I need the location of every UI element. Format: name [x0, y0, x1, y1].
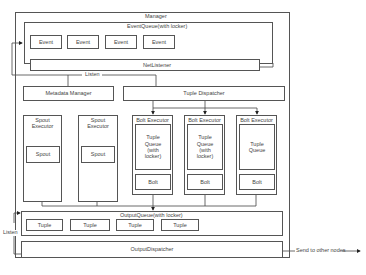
- metadata-manager: Metadata Manager: [23, 86, 114, 101]
- tuple-box: Tuple: [116, 219, 154, 231]
- tuple-box: Tuple: [26, 219, 63, 231]
- output-dispatcher: OutputDispatcher: [21, 241, 283, 258]
- event-queue-label: EventQueue(with locker): [127, 24, 187, 30]
- tuple-dispatcher: Tuple Dispatcher: [123, 86, 285, 101]
- spout-box: Spout: [81, 146, 115, 163]
- tuple-box: Tuple: [70, 219, 110, 231]
- send-to-other-nodes-label: Send to other nodes: [296, 248, 346, 254]
- event-box: Event: [143, 35, 175, 49]
- output-queue-label: OutputQueue(with locker): [120, 213, 183, 219]
- bolt-box: Bolt: [187, 174, 223, 190]
- listen-label-bottom: Listen: [2, 230, 19, 236]
- net-listener: NetListener: [30, 59, 260, 71]
- tuple-queue: Tuple Queue (with locker): [187, 124, 223, 170]
- listen-label-top: Listen: [84, 72, 101, 78]
- manager-label: Manager: [145, 14, 167, 20]
- bolt-box: Bolt: [135, 174, 171, 190]
- tuple-queue: Tuple Queue: [239, 124, 275, 170]
- event-box: Event: [67, 35, 99, 49]
- event-box: Event: [105, 35, 137, 49]
- spout-box: Spout: [26, 146, 60, 163]
- event-box: Event: [30, 35, 62, 49]
- tuple-queue: Tuple Queue (with locker): [135, 124, 171, 170]
- bolt-box: Bolt: [239, 174, 275, 190]
- tuple-box: Tuple: [161, 219, 199, 231]
